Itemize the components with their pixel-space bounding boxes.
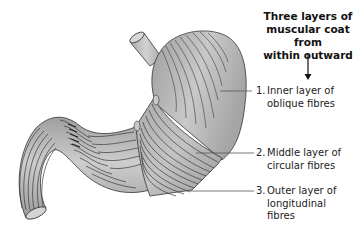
diagram-heading: Three layers of muscular coat from withi… [252, 10, 364, 62]
label-line: Inner layer of [267, 85, 334, 96]
stomach-muscle-diagram: Three layers of muscular coat from withi… [0, 0, 364, 238]
label-number: 1. [256, 85, 267, 98]
label-line: fibres [256, 210, 336, 223]
label-line: Middle layer of [267, 147, 341, 158]
heading-line-3: within outward [252, 49, 364, 62]
label-number: 2. [256, 147, 267, 160]
label-middle-circular: 2.Middle layer of circular fibres [256, 147, 341, 172]
label-line: Outer layer of [267, 185, 336, 196]
label-inner-oblique: 1.Inner layer of oblique fibres [256, 85, 335, 110]
label-outer-longitudinal: 3.Outer layer of longitudinal fibres [256, 185, 336, 223]
heading-line-1: Three layers of [252, 10, 364, 23]
heading-line-2: muscular coat from [252, 23, 364, 49]
label-line: longitudinal [256, 198, 336, 211]
label-number: 3. [256, 185, 267, 198]
duodenum-tube [19, 117, 150, 221]
label-line: oblique fibres [256, 98, 335, 111]
label-line: circular fibres [256, 160, 341, 173]
